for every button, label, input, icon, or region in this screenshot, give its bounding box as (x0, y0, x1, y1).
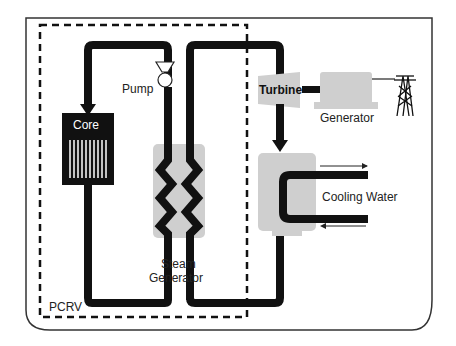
turbine-label: Turbine (259, 83, 302, 97)
generator-label: Generator (320, 111, 374, 125)
arrow-out-icon (362, 163, 368, 169)
arrow-in-icon (320, 223, 326, 229)
generator-base (314, 102, 378, 109)
steam-generator-label-2: Generator (149, 271, 203, 285)
core-label: Core (73, 118, 99, 132)
steam-generator-label-1: Steam (161, 257, 196, 271)
condenser-base (272, 228, 302, 236)
feedwater-return-pipe (190, 236, 280, 303)
pump-label: Pump (122, 82, 154, 96)
pump-body-icon (158, 73, 172, 87)
diagram-canvas: Core Turbine Generator Cooling Water Pum… (0, 0, 456, 346)
pcrv-label: PCRV (49, 300, 82, 314)
transmission-tower-icon (394, 76, 416, 116)
primary-loop-pipe (88, 45, 168, 105)
cooling-water-label: Cooling Water (322, 190, 398, 204)
arrow-to-condenser-icon (272, 140, 288, 152)
turbine-shaft (302, 86, 320, 93)
generator (320, 72, 372, 104)
